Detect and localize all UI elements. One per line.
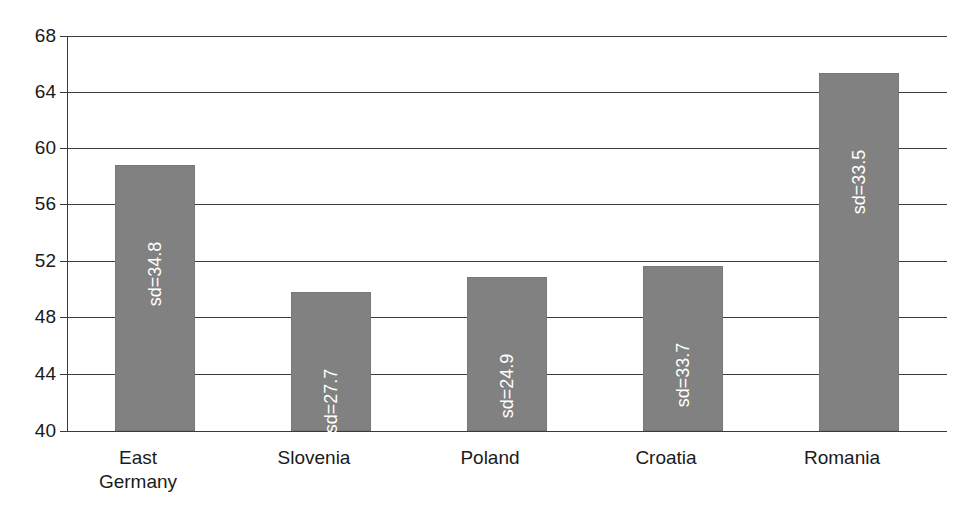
y-tick-label-60: 60 <box>8 138 56 157</box>
gridline-52 <box>67 261 947 262</box>
bar-sd-label-romania: sd=33.5 <box>850 150 868 215</box>
category-label-poland: Poland <box>407 446 573 470</box>
y-axis-tick-labels: 68 64 60 56 52 48 44 40 <box>0 0 56 527</box>
gridline-64 <box>67 92 947 93</box>
bar-east-germany[interactable]: sd=34.8 n=254 <box>115 165 195 431</box>
bar-sd-label-poland: sd=24.9 <box>498 354 516 419</box>
y-tick-label-52: 52 <box>8 251 56 270</box>
bar-romania[interactable]: sd=33.5 n=201 <box>819 73 899 431</box>
bar-sd-label-croatia: sd=33.7 <box>674 343 692 408</box>
gridline-60 <box>67 148 947 149</box>
y-tick-label-68: 68 <box>8 26 56 45</box>
category-label-line1: East <box>55 446 221 470</box>
bar-slovenia[interactable]: sd=27.7 n=40 <box>291 292 371 431</box>
category-label-croatia: Croatia <box>583 446 749 470</box>
category-label-line1: Romania <box>759 446 925 470</box>
category-label-east-germany: East Germany <box>55 446 221 494</box>
category-label-line1: Croatia <box>583 446 749 470</box>
y-tick-label-44: 44 <box>8 364 56 383</box>
bar-chart: 68 64 60 56 52 48 44 40 sd=34.8 n=254 sd… <box>0 0 977 527</box>
bar-sd-label-east-germany: sd=34.8 <box>146 242 164 307</box>
plot-area: sd=34.8 n=254 sd=27.7 n=40 sd=24.9 n=110… <box>67 36 947 431</box>
x-axis-line <box>67 431 947 432</box>
y-tick-label-64: 64 <box>8 82 56 101</box>
bar-sd-label-slovenia: sd=27.7 <box>322 369 340 434</box>
gridline-68 <box>67 36 947 37</box>
category-label-slovenia: Slovenia <box>231 446 397 470</box>
y-tick-label-40: 40 <box>8 421 56 440</box>
category-label-romania: Romania <box>759 446 925 470</box>
y-tick-label-48: 48 <box>8 307 56 326</box>
category-label-line1: Poland <box>407 446 573 470</box>
y-tick-label-56: 56 <box>8 194 56 213</box>
bar-croatia[interactable]: sd=33.7 n=120 <box>643 266 723 431</box>
bar-poland[interactable]: sd=24.9 n=110 <box>467 277 547 431</box>
category-label-line1: Slovenia <box>231 446 397 470</box>
category-label-line2: Germany <box>55 470 221 494</box>
gridline-56 <box>67 204 947 205</box>
